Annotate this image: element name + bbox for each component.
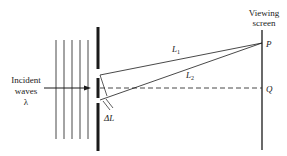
- ray-l2: [100, 43, 262, 100]
- barrier-bottom: [97, 103, 100, 151]
- wavelength-label: λ: [24, 97, 29, 107]
- path-l1-label: L1: [171, 44, 180, 55]
- screen-label-line2: screen: [253, 18, 276, 28]
- path-difference-label: ΔL: [103, 113, 114, 123]
- ray-l1: [100, 43, 262, 75]
- path-l2-label: L2: [185, 70, 194, 81]
- barrier-top: [97, 27, 100, 69]
- barrier-middle: [97, 78, 100, 98]
- slit-barrier: [97, 27, 100, 151]
- arrowhead-icon: [84, 86, 91, 91]
- double-slit-diagram: Incident waves λ Viewing screen P Q L1 L…: [0, 0, 287, 156]
- screen-label-line1: Viewing: [249, 8, 280, 18]
- incident-arrow: [44, 86, 91, 91]
- point-p-label: P: [265, 39, 272, 49]
- point-q-label: Q: [266, 84, 273, 94]
- incident-label-line2: waves: [15, 86, 38, 96]
- incident-label-line1: Incident: [11, 75, 41, 85]
- wavefronts: [56, 40, 88, 139]
- path-difference-marker: [100, 75, 113, 110]
